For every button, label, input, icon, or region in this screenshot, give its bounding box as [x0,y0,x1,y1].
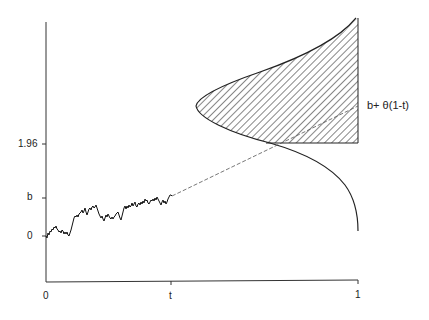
x-tick-label-0: 0 [43,291,49,301]
drift-annotation: b+ θ(1-t) [367,100,409,111]
diagram-canvas [0,0,429,320]
brownian-path [46,195,172,238]
x-tick-label-t: t [169,291,172,301]
y-tick-label-b: b [27,192,33,202]
y-tick-label-1.96: 1.96 [18,139,37,149]
x-tick-label-1: 1 [355,290,361,300]
hatched-tail-region [196,18,358,143]
x-axis [46,280,358,282]
y-tick-label-0: 0 [27,231,33,241]
